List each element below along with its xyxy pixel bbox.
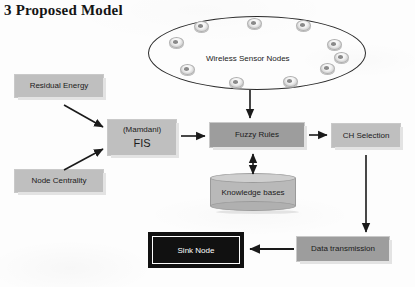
node-centrality-label: Node Centrality xyxy=(31,176,86,186)
node-centrality-box[interactable]: Node Centrality xyxy=(14,169,104,193)
sensor-node-icon xyxy=(180,64,195,75)
sensor-node-icon xyxy=(247,18,262,29)
fis-box[interactable]: (Mamdani) FIS xyxy=(107,119,177,156)
sink-node-box[interactable]: Sink Node xyxy=(148,232,244,268)
sensor-node-icon xyxy=(169,37,184,48)
ch-selection-label: CH Selection xyxy=(343,131,390,141)
box-shadow xyxy=(300,261,392,264)
fis-label: FIS xyxy=(133,137,150,151)
sensor-node-icon xyxy=(283,76,298,87)
box-shadow xyxy=(176,123,179,158)
figure-canvas: 3 Proposed Model Wireless Sensor Nodes R… xyxy=(0,0,415,287)
sensor-node-icon xyxy=(320,63,335,74)
knowledge-bases-cylinder[interactable]: Knowledge bases xyxy=(210,173,296,211)
connector-residual-energy-to-fis xyxy=(64,105,103,127)
fuzzy-rules-box[interactable]: Fuzzy Rules xyxy=(209,122,305,148)
sensor-node-icon xyxy=(296,20,311,31)
page-title: 3 Proposed Model xyxy=(4,2,123,19)
data-transmission-label: Data transmission xyxy=(311,244,375,254)
sensor-node-icon xyxy=(229,77,244,88)
residual-energy-box[interactable]: Residual Energy xyxy=(14,74,104,98)
fuzzy-rules-label: Fuzzy Rules xyxy=(235,130,279,140)
box-shadow xyxy=(335,147,403,150)
sensor-node-icon xyxy=(334,52,349,63)
data-transmission-box[interactable]: Data transmission xyxy=(296,236,390,262)
box-shadow xyxy=(213,147,307,150)
sensor-node-icon xyxy=(327,39,342,50)
box-shadow xyxy=(111,155,179,158)
fis-mamdani-label: (Mamdani) xyxy=(123,125,161,135)
sensor-node-icon xyxy=(194,21,209,32)
connector-node-centrality-to-fis xyxy=(64,149,103,170)
sink-node-label: Sink Node xyxy=(178,246,215,255)
residual-energy-label: Residual Energy xyxy=(30,81,89,91)
wireless-sensor-cloud-label: Wireless Sensor Nodes xyxy=(206,54,290,63)
ch-selection-box[interactable]: CH Selection xyxy=(331,123,401,148)
box-shadow xyxy=(18,192,106,195)
knowledge-bases-label: Knowledge bases xyxy=(210,173,296,211)
box-shadow xyxy=(18,97,106,100)
